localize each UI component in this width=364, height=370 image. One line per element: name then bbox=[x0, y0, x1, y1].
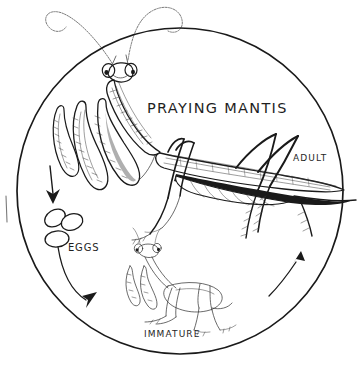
right-eye-pupil bbox=[131, 70, 135, 75]
illustration-canvas: PRAYING MANTIS ADULT EGGS IMMATURE bbox=[0, 0, 364, 370]
figure-title: PRAYING MANTIS bbox=[147, 100, 288, 116]
label-immature: IMMATURE bbox=[144, 329, 200, 339]
nymph-right-pupil bbox=[157, 248, 160, 251]
praying-mantis-life-cycle-figure: PRAYING MANTIS ADULT EGGS IMMATURE bbox=[0, 0, 364, 370]
nymph-left-pupil bbox=[136, 248, 139, 251]
label-adult: ADULT bbox=[293, 153, 327, 163]
label-eggs: EGGS bbox=[68, 242, 99, 253]
head-capsule bbox=[108, 63, 133, 82]
left-eye-pupil bbox=[104, 70, 108, 75]
